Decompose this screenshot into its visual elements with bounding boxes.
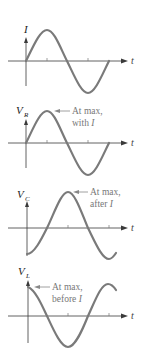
x-axis-arrow-icon	[121, 226, 128, 231]
y-axis-subscript: L	[25, 272, 30, 280]
annotation-line-2: before I	[52, 294, 83, 304]
x-axis-label: t	[131, 222, 134, 233]
pointer-arrow-icon	[73, 190, 79, 194]
y-axis-subscript: R	[23, 111, 29, 119]
panel-capacitor-voltage: V C t At max, after I	[8, 187, 134, 259]
annotation-line-2: with I	[72, 118, 95, 128]
phase-diagram: I t V R t At max, with I V C t At max, a…	[0, 0, 143, 363]
panel-resistor-voltage: V R t At max, with I	[8, 104, 134, 175]
y-axis-arrow-icon	[24, 119, 28, 125]
y-axis-subscript: C	[25, 195, 30, 203]
x-axis-label: t	[131, 310, 134, 321]
current-waveform	[26, 30, 109, 93]
x-axis-arrow-icon	[121, 141, 128, 146]
panel-current: I t	[8, 23, 134, 93]
pointer-arrow-icon	[54, 109, 60, 113]
x-axis-arrow-icon	[121, 314, 128, 319]
y-axis-arrow-icon	[26, 280, 30, 286]
annotation-line-2: after I	[90, 199, 114, 209]
annotation-line-1: At max,	[90, 187, 121, 197]
x-axis-label: t	[131, 55, 134, 66]
annotation-line-1: At max,	[72, 106, 103, 116]
y-axis-label: I	[23, 23, 29, 35]
x-axis-arrow-icon	[121, 59, 128, 64]
annotation-line-1: At max,	[52, 282, 83, 292]
panel-inductor-voltage: V L t At max, before I	[8, 265, 134, 347]
pointer-arrow-icon	[34, 285, 40, 289]
y-axis-label: V	[18, 265, 26, 277]
x-axis-label: t	[131, 137, 134, 148]
y-axis-arrow-icon	[24, 37, 28, 43]
y-axis-label: V	[16, 104, 24, 116]
y-axis-label: V	[17, 188, 25, 200]
